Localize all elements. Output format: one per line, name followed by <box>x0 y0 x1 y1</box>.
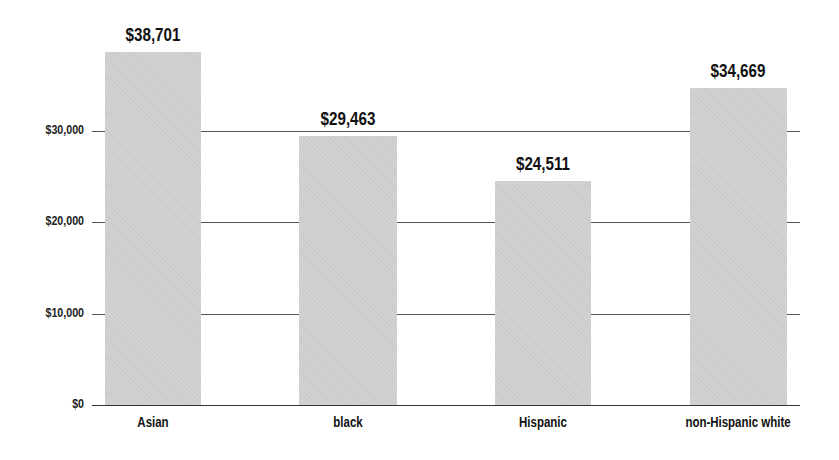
category-label: Asian <box>104 414 202 430</box>
value-label: $29,463 <box>300 108 396 130</box>
x-axis-baseline <box>92 405 800 406</box>
bar-black <box>299 136 397 405</box>
value-label: $38,701 <box>105 24 201 46</box>
y-tick-label: $10,000 <box>15 305 84 320</box>
bar-asian <box>105 52 201 405</box>
y-tick-label: $20,000 <box>15 213 84 228</box>
bar-non-hispanic-white <box>690 88 787 405</box>
category-label: black <box>299 414 397 430</box>
value-label: $34,669 <box>690 60 786 82</box>
category-label: non-Hispanic white <box>681 414 796 430</box>
y-tick-label: $30,000 <box>15 122 84 137</box>
value-label: $24,511 <box>495 153 591 175</box>
category-label: Hispanic <box>494 414 592 430</box>
y-tick-label: $0 <box>15 396 84 411</box>
bar-hispanic <box>495 181 591 405</box>
